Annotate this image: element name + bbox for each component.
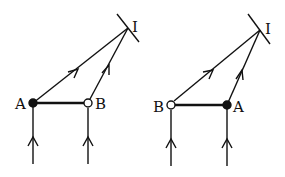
left-label-a: A [14, 95, 26, 113]
left-point-b [84, 99, 92, 107]
right-ray-a-to-i [227, 30, 260, 105]
right-point-b [167, 101, 175, 109]
right-label-i: I [265, 20, 271, 38]
right-label-b: B [153, 98, 164, 116]
arrow-right-icon [236, 70, 243, 80]
right-point-a [223, 101, 231, 109]
left-label-i: I [132, 18, 138, 36]
arrow-right-icon [203, 70, 213, 79]
left-label-b: B [95, 95, 106, 113]
left-ray-b-to-i [90, 28, 128, 99]
ray-diagram: A B I B A I [0, 0, 285, 177]
left-ray-a-to-i [33, 28, 128, 103]
right-ray-b-to-i [174, 30, 260, 101]
right-label-a: A [232, 98, 244, 116]
left-panel [28, 14, 139, 164]
left-point-a [29, 99, 37, 107]
right-panel [166, 14, 270, 166]
